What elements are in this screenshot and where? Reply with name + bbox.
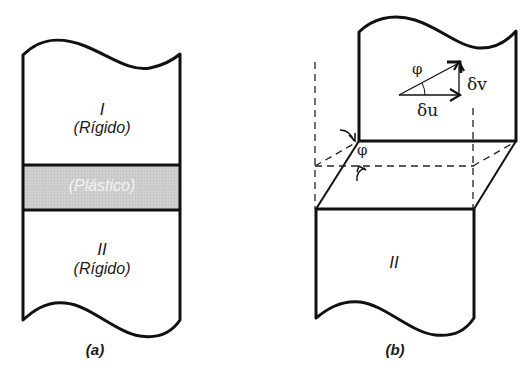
displacement-vectors (399, 62, 464, 101)
shear-angle-label: φ (357, 141, 368, 159)
block-i-state: (Rígido) (52, 119, 152, 137)
shear-side-right (474, 141, 516, 209)
vector-angle-label: φ (412, 60, 423, 78)
upper-block-b (359, 17, 516, 141)
caption-b: (b) (380, 341, 410, 358)
delta-v-label: δv (467, 74, 487, 94)
block-ii-state: (Rígido) (52, 260, 152, 278)
shear-side-left (316, 141, 359, 209)
block-ii-numeral-b: II (382, 253, 406, 273)
caption-a: (a) (80, 341, 110, 358)
block-i-numeral: I (92, 100, 112, 120)
block-ii-numeral-a: II (90, 240, 114, 260)
angle-arc-vector (422, 83, 425, 95)
delta-u-label: δu (417, 100, 438, 120)
plastic-band-label: (Plástico) (52, 177, 152, 195)
